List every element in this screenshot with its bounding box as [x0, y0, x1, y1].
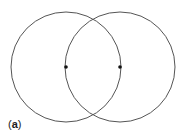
panel-label-close-paren: ) — [18, 118, 22, 130]
right-center-point — [118, 65, 122, 69]
venn-circles-diagram — [0, 0, 193, 136]
left-center-point — [64, 65, 68, 69]
panel-label: (a) — [8, 117, 21, 131]
